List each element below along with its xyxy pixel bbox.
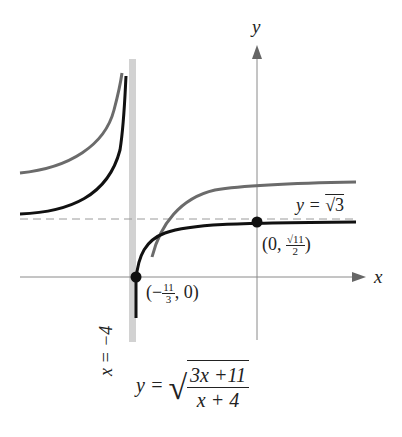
equation-numerator: 3x +11 [187, 363, 249, 388]
y-axis-arrow-icon [252, 45, 262, 59]
point-b-fraction: √112 [286, 234, 305, 257]
horizontal-asymptote-label: y = √3 [296, 195, 344, 216]
h-asymptote-lhs: y = [296, 195, 325, 215]
equation-lhs: y = [136, 374, 168, 396]
point-b-den: 2 [286, 246, 305, 257]
x-axis-label: x [374, 266, 382, 288]
x-intercept-point [131, 272, 142, 283]
y-intercept-point [252, 217, 263, 228]
gray-curve-left-branch [20, 73, 122, 173]
black-curve-left-branch [20, 76, 126, 214]
equation-fraction: 3x +11x + 4 [187, 363, 249, 412]
point-a-fraction: 113 [162, 282, 175, 305]
radicand: 3x +11x + 4 [187, 360, 249, 412]
point-a-open: (− [146, 282, 162, 302]
function-equation: y = √3x +11x + 4 [136, 360, 249, 412]
vertical-asymptote-label: x = −4 [96, 326, 117, 376]
y-intercept-label: (0, √112) [262, 234, 311, 257]
equation-denominator: x + 4 [197, 389, 239, 411]
point-a-den: 3 [162, 294, 175, 305]
point-a-close: , 0) [175, 282, 199, 302]
h-asymptote-rhs: √3 [325, 195, 344, 215]
x-axis-arrow-icon [352, 272, 366, 282]
radical-sign-icon: √ [168, 369, 187, 406]
x-intercept-label: (−113, 0) [146, 282, 199, 305]
point-b-close: ) [305, 234, 311, 254]
y-axis-label: y [252, 16, 260, 38]
point-b-open: (0, [262, 234, 286, 254]
